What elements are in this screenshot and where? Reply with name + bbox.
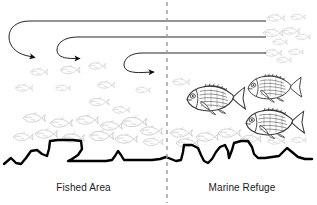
faint-fish [291,136,306,143]
faint-fish [50,117,72,127]
faint-fish [89,97,109,106]
faint-fish [267,14,284,22]
spillover-arrow-layer [9,21,266,73]
faint-fish [135,86,150,93]
faint-fish [170,127,192,137]
faint-fish [263,28,283,37]
faint-fish [89,130,114,141]
refuge-fish-1 [187,84,245,115]
spillover-arrow-2 [57,37,266,59]
faint-fish [112,106,129,114]
faint-fish [88,62,105,70]
refuge-fish-3 [246,108,304,139]
faint-fish [100,120,122,130]
faint-fish [290,13,305,20]
faint-fish [35,128,57,138]
faint-fish [295,33,310,40]
refuge-fish-2 [248,74,302,103]
marine-refuge-spillover-diagram [0,0,317,205]
faint-fish [15,84,32,92]
faint-fish [55,84,70,91]
diagram-root: Fished Area Marine Refuge [0,0,317,205]
spillover-arrow-1 [9,21,266,58]
faint-fish [143,137,163,146]
faint-fish [76,114,98,124]
faint-fish [172,78,189,86]
faint-fish [122,116,147,127]
detailed-fish-layer [187,74,304,139]
faint-fish [288,48,303,55]
faint-fish [30,68,47,76]
faint-fish [140,125,162,135]
faint-fish [264,49,281,57]
faint-fish [115,133,137,143]
faint-fish [276,56,291,63]
faint-fish [196,131,218,141]
faint-fish [218,127,240,137]
faint-fish [97,81,114,89]
faint-fish [60,65,80,74]
spillover-arrow-3 [124,53,266,73]
faint-fish [23,112,45,122]
label-fished-area: Fished Area [0,182,167,193]
faint-fish [267,137,284,145]
faint-fish [13,132,33,141]
label-marine-refuge: Marine Refuge [167,182,317,193]
faint-fish [282,27,299,35]
faint-fish [272,38,287,45]
